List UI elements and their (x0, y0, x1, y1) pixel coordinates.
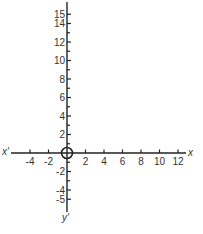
x-tick-label: 2 (83, 156, 89, 167)
x-tick-label: -4 (26, 156, 35, 167)
y-axis: 151412108642-2-4-5y' (54, 2, 71, 223)
x-tick-label: 12 (172, 156, 184, 167)
coordinate-axes-diagram: -4-224681012xx' 151412108642-2-4-5y' (0, 0, 203, 234)
y-prime-axis-label: y' (61, 212, 70, 223)
x-tick-label: -2 (44, 156, 53, 167)
y-tick-label: 14 (54, 18, 66, 29)
y-tick-label: 8 (59, 74, 65, 85)
x-tick-label: 4 (101, 156, 107, 167)
y-tick-label: 6 (59, 92, 65, 103)
y-tick-label: -2 (56, 166, 65, 177)
x-prime-axis-label: x' (1, 146, 10, 157)
y-tick-label: 4 (59, 111, 65, 122)
x-tick-label: 10 (154, 156, 166, 167)
y-tick-label: 10 (54, 55, 66, 66)
x-tick-label: 6 (120, 156, 126, 167)
x-axis: -4-224681012xx' (1, 146, 194, 167)
y-tick-label: 2 (59, 129, 65, 140)
y-tick-label: -5 (56, 194, 65, 205)
x-axis-label: x (187, 147, 194, 158)
y-tick-label: 12 (54, 37, 66, 48)
x-tick-label: 8 (138, 156, 144, 167)
